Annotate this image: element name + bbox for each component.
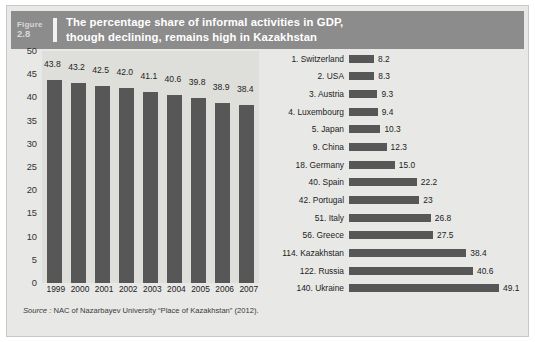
left-x-tick-label: 2003 [143,284,158,298]
right-bar-track: 49.1 [349,284,524,292]
right-bar-track: 10.3 [349,125,524,133]
right-bar-category-label: 122. Russia [261,266,349,276]
right-bar-row: 5. Japan10.3 [261,124,524,135]
left-column-value-label: 43.8 [44,59,61,69]
right-bar [349,214,431,222]
source-note: Source : NAC of Nazarbayev University “P… [23,306,259,315]
right-bar [349,108,378,116]
left-column-item: 38.4 [239,51,254,283]
right-bar-value-label: 38.4 [466,248,486,258]
right-bar [349,125,380,133]
right-bar-row: 40. Spain22.2 [261,177,524,188]
right-bar [349,90,377,98]
left-column-bar [143,92,158,283]
right-bar-value-label: 49.1 [499,283,519,293]
left-column-item: 42.0 [119,51,134,283]
left-column-value-label: 38.9 [213,82,230,92]
right-bar [349,55,374,63]
right-bar-row: 51. Italy26.8 [261,212,524,223]
left-column-bar [215,103,230,283]
left-x-tick-label: 2002 [119,284,134,298]
right-bar-category-label: 4. Luxembourg [261,107,349,117]
left-column-item: 38.9 [215,51,230,283]
left-y-tick-label: 0 [32,278,37,288]
right-bar-row: 140. Ukraine49.1 [261,283,524,294]
right-bar-value-label: 26.8 [431,213,451,223]
left-y-tick-label: 10 [27,232,37,242]
right-bar-row: 2. USA8.3 [261,71,524,82]
right-bar-category-label: 40. Spain [261,177,349,187]
figure-number-block: Figure 2.8 [11,20,53,40]
left-column-item: 40.6 [167,51,182,283]
left-x-tick-label: 2005 [191,284,206,298]
right-bar-chart: 1. Switzerland8.22. USA8.33. Austria9.34… [261,51,524,296]
left-column-value-label: 43.2 [68,62,85,72]
left-column-value-label: 42.5 [92,65,109,75]
left-column-bar [95,86,110,283]
right-bar-row: 1. Switzerland8.2 [261,53,524,64]
source-prefix: Source : [23,306,51,315]
left-column-value-label: 39.8 [189,77,206,87]
right-bar-track: 26.8 [349,214,524,222]
right-bar-track: 40.6 [349,267,524,275]
right-bar-value-label: 12.3 [387,142,407,152]
left-y-tick-label: 5 [32,255,37,265]
right-bar-track: 27.5 [349,231,524,239]
right-bar-category-label: 9. China [261,142,349,152]
left-x-tick-label: 1999 [47,284,62,298]
left-y-tick-label: 15 [27,208,37,218]
right-bar-value-label: 15.0 [395,160,415,170]
right-bar-row: 122. Russia40.6 [261,265,524,276]
right-bar [349,178,417,186]
left-y-axis-ticks: 50454035302520151050 [11,51,40,283]
right-bar-value-label: 22.2 [417,177,437,187]
left-y-tick-label: 30 [27,139,37,149]
left-x-tick-label: 2007 [239,284,254,298]
right-bar [349,267,473,275]
figure-title-line-2: though declining, remains high in Kazakh… [66,30,343,45]
right-bar-value-label: 27.5 [433,230,453,240]
figure-header-band: Figure 2.8 The percentage share of infor… [11,11,524,49]
charts-area: 50454035302520151050 43.843.242.542.041.… [11,51,524,296]
left-x-tick-label: 2001 [95,284,110,298]
right-bar-value-label: 40.6 [473,266,493,276]
right-bar-row: 3. Austria9.3 [261,88,524,99]
right-bar-value-label: 10.3 [380,124,400,134]
right-bar-row: 42. Portugal23 [261,195,524,206]
header-divider-rule [53,18,57,42]
left-y-tick-label: 45 [27,69,37,79]
left-column-bar [71,83,86,283]
left-column-item: 41.1 [143,51,158,283]
right-bar-category-label: 114. Kazakhstan [261,248,349,258]
left-x-tick-label: 2006 [215,284,230,298]
right-bar-category-label: 140. Ukraine [261,283,349,293]
right-bar-row: 9. China12.3 [261,141,524,152]
right-bar-row: 114. Kazakhstan38.4 [261,248,524,259]
right-bar-track: 8.3 [349,72,524,80]
figure-title-line-1: The percentage share of informal activit… [66,15,343,30]
right-bar-row: 18. Germany15.0 [261,159,524,170]
right-bar-track: 12.3 [349,143,524,151]
right-bar-category-label: 1. Switzerland [261,54,349,64]
left-y-tick-label: 35 [27,116,37,126]
figure-title: The percentage share of informal activit… [66,15,343,46]
right-bar-category-label: 2. USA [261,71,349,81]
left-y-tick-label: 25 [27,162,37,172]
right-bar-value-label: 8.2 [374,54,390,64]
left-column-bar [191,98,206,283]
right-bar-rows: 1. Switzerland8.22. USA8.33. Austria9.34… [261,53,524,294]
left-x-tick-label: 2004 [167,284,182,298]
left-column-bar [239,105,254,283]
left-column-item: 43.8 [47,51,62,283]
right-bar [349,196,419,204]
left-bar-series: 43.843.242.542.041.140.639.838.938.4 [42,51,259,283]
right-bar-value-label: 23 [419,195,432,205]
right-bar [349,249,466,257]
figure-number: 2.8 [17,29,53,40]
right-bar-category-label: 3. Austria [261,89,349,99]
left-column-bar [167,95,182,283]
left-column-item: 43.2 [71,51,86,283]
left-y-tick-label: 50 [27,46,37,56]
right-bar-category-label: 5. Japan [261,124,349,134]
right-bar-track: 9.4 [349,108,524,116]
